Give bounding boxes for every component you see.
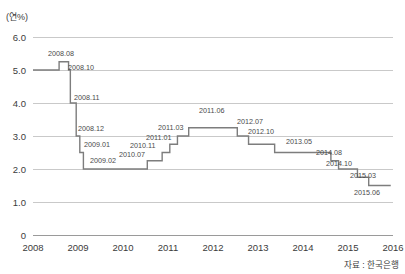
x-tick-label: 2013 [247,242,268,253]
data-point-label: 2013.05 [286,137,312,146]
y-tick-label: 6.0 [13,32,26,43]
source-note: 자료 : 한국은행 [344,259,399,270]
data-point-label: 2012.10 [248,127,274,136]
data-point-label: 2009.01 [84,140,110,149]
y-axis-unit-label: (연%) [6,12,28,22]
data-point-labels: 2008.082008.102008.112008.122009.012009.… [48,49,380,197]
y-tick-label: 4.0 [13,98,26,109]
data-point-label: 2008.10 [68,63,94,72]
x-tick-label: 2012 [202,242,223,253]
chart-canvas: 01.02.03.04.05.06.0 20082009201020112012… [0,0,405,274]
data-point-label: 2010.07 [119,150,145,159]
y-tick-label: 5.0 [13,65,26,76]
data-point-label: 2008.08 [48,49,74,58]
rate-chart: 01.02.03.04.05.06.0 20082009201020112012… [0,0,405,274]
data-point-label: 2014.08 [316,148,342,157]
x-tick-label: 2016 [382,242,403,253]
x-tick-label: 2010 [112,242,133,253]
data-point-label: 2012.07 [237,117,263,126]
y-axis-ticks: 01.02.03.04.05.06.0 [13,32,26,241]
data-point-label: 2008.11 [74,93,99,102]
data-point-label: 2008.12 [78,124,104,133]
data-point-label: 2010.11 [130,141,155,150]
data-point-label: 2011.01 [146,133,171,142]
data-point-label: 2011.06 [199,106,224,115]
data-point-label: 2011.03 [158,123,183,132]
data-point-label: 2009.02 [90,156,116,165]
data-point-label: 2015.03 [350,171,376,180]
x-tick-label: 2008 [22,242,43,253]
data-point-label: 2015.06 [354,188,380,197]
y-tick-label: 1.0 [13,197,26,208]
x-tick-label: 2011 [158,242,178,253]
y-tick-label: 3.0 [13,131,26,142]
y-tick-label: 0 [21,230,26,241]
y-tick-label: 2.0 [13,164,26,175]
x-tick-label: 2009 [67,242,88,253]
data-point-label: 2014.10 [326,159,352,168]
x-tick-label: 2014 [292,242,313,253]
x-axis-ticks: 200820092010201120122013201420152016 [22,242,403,253]
x-tick-label: 2015 [337,242,358,253]
